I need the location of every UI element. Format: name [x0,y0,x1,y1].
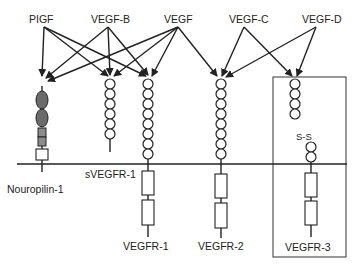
disulfide-bond-label: S-S [296,131,312,142]
vegf-receptor-diagram: PIGF VEGF-B VEGF VEGF-C VEGF-D [0,0,359,266]
receptor-label-svegfr-1: sVEGFR-1 [85,168,136,180]
ligand-label-vegfc: VEGF-C [229,13,269,25]
ligand-label-plgf: PIGF [29,13,54,25]
receptor-label-vegfr-3: VEGFR-3 [285,241,331,253]
vegfr3-highlight-box [273,77,346,257]
receptor-vegfr-3 [290,79,317,237]
receptor-neuropilin-1 [36,86,48,172]
ligand-label-vegfb: VEGF-B [91,13,130,25]
ligand-label-vegf: VEGF [164,13,193,25]
receptor-vegfr-1 [142,79,154,237]
ligand-label-vegfd: VEGF-D [302,13,342,25]
receptor-label-vegfr-1: VEGFR-1 [123,240,169,252]
binding-arrows [42,27,316,81]
receptor-svegfr-1 [105,79,115,152]
receptor-vegfr-2 [215,79,227,238]
receptor-label-vegfr-2: VEGFR-2 [198,240,244,252]
receptor-label-neuropilin-1: Nouropilin-1 [7,183,64,195]
